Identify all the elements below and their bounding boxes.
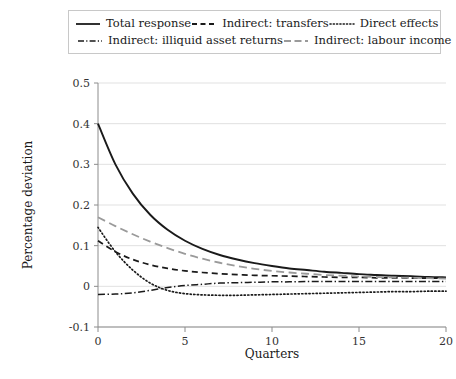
y-tick-label: 0 (83, 280, 90, 293)
series-line (98, 217, 446, 278)
chart-gridlines (98, 83, 446, 327)
series-line (98, 124, 446, 278)
x-tick-label: 20 (439, 335, 453, 348)
y-tick-label: 0.5 (73, 77, 91, 90)
y-tick-label: -0.1 (69, 321, 90, 334)
y-tick-label: 0.4 (73, 118, 91, 131)
x-tick-label: 15 (352, 335, 366, 348)
chart-series-lines (98, 124, 446, 296)
series-line (98, 241, 446, 278)
chart-y-tick-labels: -0.100.10.20.30.40.5 (69, 77, 90, 334)
x-tick-label: 0 (95, 335, 102, 348)
chart-y-axis-title: Percentage deviation (21, 140, 35, 269)
series-line (98, 227, 446, 295)
chart-figure: Total response Indirect: transfers Direc… (0, 0, 456, 379)
chart-x-axis-title: Quarters (245, 347, 299, 361)
chart-plot-area: -0.100.10.20.30.40.5 05101520 Quarters P… (0, 0, 456, 379)
x-tick-label: 5 (182, 335, 189, 348)
y-tick-label: 0.3 (73, 158, 91, 171)
y-tick-label: 0.2 (73, 199, 91, 212)
y-tick-label: 0.1 (73, 240, 91, 253)
